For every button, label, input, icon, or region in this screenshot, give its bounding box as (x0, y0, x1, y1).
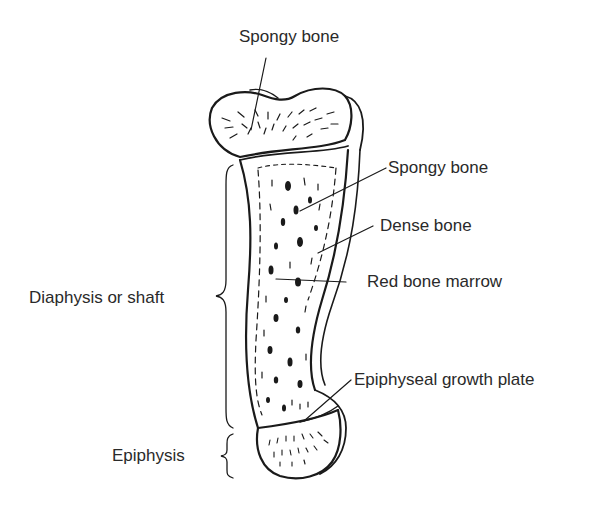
diaphysis-shaft (240, 150, 360, 428)
label-epiphyseal-growth-plate: Epiphyseal growth plate (354, 371, 535, 388)
label-red-bone-marrow: Red bone marrow (367, 273, 502, 290)
label-spongy-bone-top: Spongy bone (239, 28, 339, 45)
braces (216, 165, 233, 478)
label-diaphysis: Diaphysis or shaft (29, 289, 164, 306)
label-epiphysis: Epiphysis (112, 447, 185, 464)
label-spongy-bone-shaft: Spongy bone (388, 159, 488, 176)
top-epiphysis (210, 89, 363, 161)
bone-diagram (0, 0, 597, 507)
bottom-epiphysis (257, 390, 346, 478)
label-dense-bone: Dense bone (380, 217, 472, 234)
leader-lines (251, 58, 386, 421)
